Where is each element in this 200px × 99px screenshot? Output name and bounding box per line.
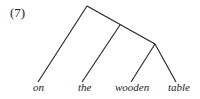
branch-the bbox=[82, 25, 120, 82]
leaf-wooden: wooden bbox=[115, 81, 149, 93]
branch-table bbox=[155, 44, 176, 82]
branch-wooden bbox=[131, 44, 155, 82]
leaf-the: the bbox=[78, 81, 91, 93]
branch-root-right bbox=[87, 6, 155, 44]
leaf-table: table bbox=[168, 81, 190, 93]
branch-on bbox=[38, 6, 87, 82]
leaf-on: on bbox=[33, 81, 44, 93]
